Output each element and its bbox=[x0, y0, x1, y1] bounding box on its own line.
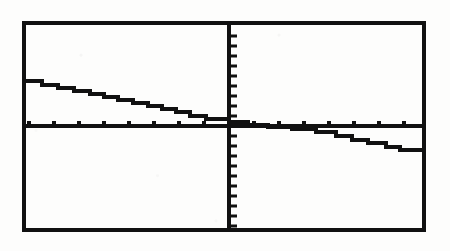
step-function-curve bbox=[24, 81, 424, 150]
calculator-screen bbox=[0, 0, 450, 251]
graph-canvas bbox=[0, 0, 450, 251]
y-axis-ticks bbox=[230, 36, 237, 226]
